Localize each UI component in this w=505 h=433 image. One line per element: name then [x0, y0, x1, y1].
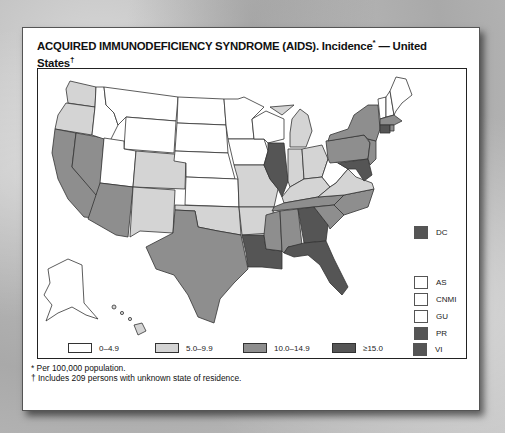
state-CT	[380, 125, 390, 133]
state-NY	[328, 105, 380, 141]
territory-PR: PR	[414, 327, 447, 340]
title-dagger: †	[70, 55, 74, 64]
state-IA	[228, 139, 268, 165]
state-FL	[284, 241, 348, 295]
map-frame: DC AS CNMI GU PR 0–4.9 5.0–9.9	[37, 68, 467, 359]
state-WI	[252, 111, 284, 143]
footnotes: * Per 100,000 population. † Includes 209…	[31, 363, 241, 383]
territory-VI: VI	[413, 343, 443, 356]
legend-swatch-0	[68, 343, 92, 353]
state-WA	[66, 81, 96, 107]
state-HI	[134, 323, 146, 335]
state-NM	[130, 187, 175, 237]
state-ME	[390, 77, 412, 115]
footnote-unknown-residence: † Includes 209 persons with unknown stat…	[31, 373, 241, 383]
state-RI	[390, 125, 394, 131]
legend-swatch-1	[155, 343, 179, 353]
legend: 0–4.9 5.0–9.9 10.0–14.9 ≥15.0	[38, 342, 466, 356]
state-HI-island	[120, 311, 123, 314]
state-ND	[177, 97, 226, 125]
state-SD	[175, 123, 228, 153]
swatch-DC	[414, 226, 428, 239]
territory-GU: GU	[414, 310, 448, 323]
legend-bin-3: ≥15.0	[332, 342, 383, 354]
legend-swatch-2	[243, 343, 267, 353]
territory-AS: AS	[414, 276, 447, 289]
legend-swatch-3	[332, 343, 356, 353]
figure-card: ACQUIRED IMMUNODEFICIENCY SYNDROME (AIDS…	[22, 27, 480, 411]
footnote-per-population: * Per 100,000 population.	[31, 363, 241, 373]
swatch-AS	[414, 276, 428, 289]
swatch-CNMI	[414, 293, 428, 306]
territory-CNMI: CNMI	[414, 293, 456, 306]
legend-bin-0: 0–4.9	[68, 342, 119, 354]
state-HI-island	[128, 317, 131, 320]
territory-DC: DC	[414, 226, 448, 239]
state-MS	[264, 211, 282, 251]
legend-bin-1: 5.0–9.9	[155, 342, 213, 354]
state-KS	[185, 177, 239, 207]
title-line1: ACQUIRED IMMUNODEFICIENCY SYNDROME (AIDS…	[37, 40, 373, 52]
legend-bin-2: 10.0–14.9	[243, 342, 310, 354]
swatch-PR	[414, 327, 428, 340]
state-HI-island	[112, 305, 116, 309]
state-AK	[44, 259, 98, 321]
swatch-VI	[413, 343, 427, 356]
us-choropleth-map	[38, 69, 466, 339]
swatch-GU	[414, 310, 428, 323]
state-WY	[124, 117, 176, 153]
